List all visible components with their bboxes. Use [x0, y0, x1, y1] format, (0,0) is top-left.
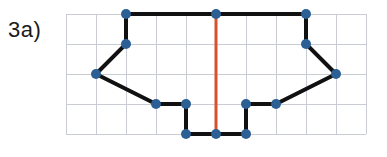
vertex-dot: [241, 99, 251, 109]
vertex-dot: [241, 129, 251, 139]
vertex-dot: [151, 99, 161, 109]
vertex-dot: [181, 99, 191, 109]
vertex-dot: [211, 9, 221, 19]
vertex-dot: [271, 99, 281, 109]
vertex-dot: [331, 69, 341, 79]
vertex-dot: [301, 39, 311, 49]
grid-figure-svg: [0, 0, 387, 157]
vertex-dot: [211, 129, 221, 139]
vertex-dot: [181, 129, 191, 139]
figure-container: 3a): [0, 0, 387, 157]
vertex-dot: [301, 9, 311, 19]
vertex-dot: [121, 39, 131, 49]
vertex-dot: [91, 69, 101, 79]
vertex-dot: [121, 9, 131, 19]
